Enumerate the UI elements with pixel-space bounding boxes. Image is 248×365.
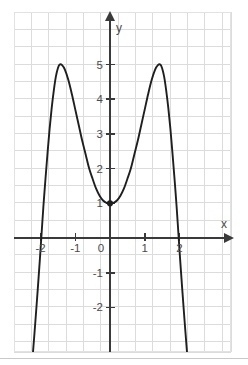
graph-figure: -2-101254321-1-2xy [0,0,248,365]
curve-overlay [0,0,248,365]
footer-divider [0,358,248,359]
